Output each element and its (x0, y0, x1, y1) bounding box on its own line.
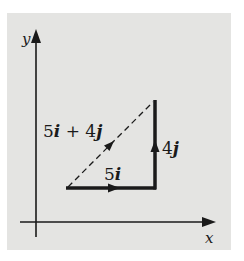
y-axis-arrow-icon (31, 29, 41, 43)
x-axis-arrow-icon (202, 217, 216, 227)
vector-4j (151, 100, 160, 190)
vector-5i-arrow-icon (108, 184, 120, 193)
x-axis-label: x (205, 229, 214, 247)
y-axis-label: y (21, 30, 31, 48)
vector-4j-label: 4j (162, 138, 180, 158)
y-axis (31, 29, 41, 237)
vector-5i (66, 184, 156, 193)
vector-4j-arrow-icon (151, 140, 160, 152)
resultant-label: 5i + 4j (43, 121, 103, 141)
vector-diagram: y x 5i + 4j 4j 5i (0, 0, 244, 261)
x-axis (20, 217, 216, 227)
vector-5i-label: 5i (104, 164, 121, 184)
